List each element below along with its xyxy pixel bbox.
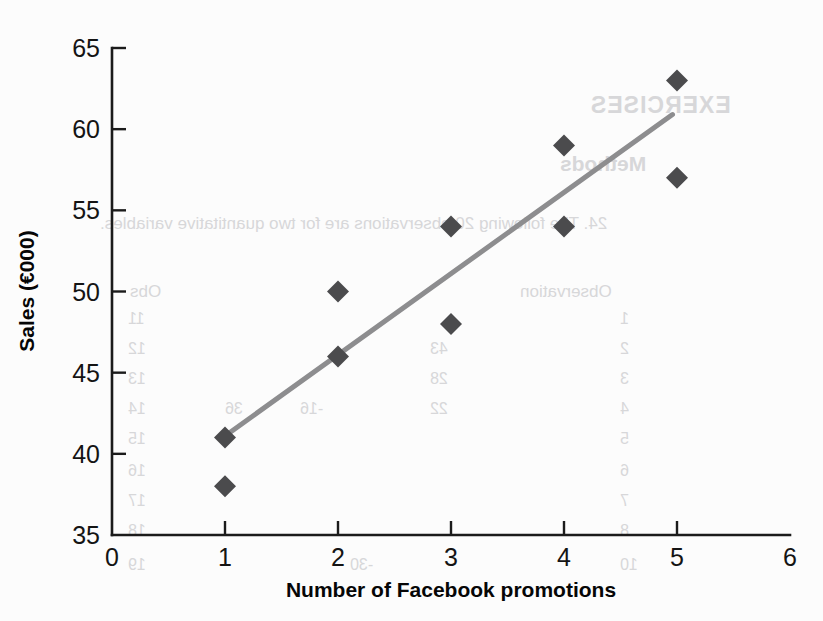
data-point (440, 313, 462, 335)
data-point (327, 281, 349, 303)
x-axis-tick-labels: 0123456 (105, 543, 797, 571)
y-axis-title: Sales (€000) (15, 230, 38, 351)
y-tick-label-65: 65 (72, 34, 100, 62)
data-point (553, 216, 575, 238)
data-point (666, 69, 688, 91)
y-tick-label-60: 60 (72, 115, 100, 143)
x-axis-ticks (225, 521, 677, 535)
scatter-diagram: 35404550556065 0123456 Number of Faceboo… (0, 0, 823, 621)
chart-svg: 35404550556065 0123456 Number of Faceboo… (0, 0, 823, 621)
x-tick-label-4: 4 (557, 543, 571, 571)
y-tick-label-35: 35 (72, 521, 100, 549)
trendline (225, 115, 672, 436)
y-tick-label-40: 40 (72, 440, 100, 468)
x-tick-label-6: 6 (783, 543, 797, 571)
x-tick-label-3: 3 (444, 543, 458, 571)
x-axis-title: Number of Facebook promotions (286, 578, 616, 601)
x-tick-label-2: 2 (331, 543, 345, 571)
data-point (553, 134, 575, 156)
y-axis-tick-labels: 35404550556065 (72, 34, 100, 549)
data-point (440, 216, 462, 238)
x-tick-label-5: 5 (670, 543, 684, 571)
x-tick-label-1: 1 (218, 543, 232, 571)
y-tick-label-45: 45 (72, 359, 100, 387)
data-point (666, 167, 688, 189)
scatter-chart-page: EXERCISESMethods24. The following 20 obs… (0, 0, 823, 621)
axes-group (112, 48, 790, 535)
y-tick-label-55: 55 (72, 196, 100, 224)
y-tick-label-50: 50 (72, 278, 100, 306)
data-point (214, 475, 236, 497)
y-axis-ticks (112, 48, 126, 454)
data-points-group (214, 69, 688, 497)
x-tick-label-0: 0 (105, 543, 119, 571)
